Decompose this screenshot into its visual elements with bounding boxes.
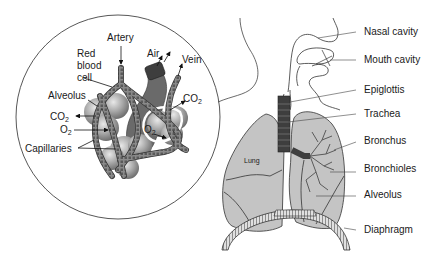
label-co2-left: CO2 <box>50 111 69 122</box>
label-bronchus: Bronchus <box>364 135 406 146</box>
label-nasal-cavity: Nasal cavity <box>364 26 418 37</box>
label-alveolus-inset: Alveolus <box>48 90 86 101</box>
label-o2-left: O2 <box>60 124 72 135</box>
label-lung: Lung <box>244 155 260 166</box>
label-vein: Vein <box>182 54 201 65</box>
label-trachea: Trachea <box>364 108 400 119</box>
label-epiglottis: Epiglottis <box>364 84 405 95</box>
label-diaphragm: Diaphragm <box>364 224 413 235</box>
label-co2-right: CO2 <box>183 93 202 104</box>
label-alveolus: Alveolus <box>364 189 402 200</box>
label-air: Air <box>147 48 159 59</box>
label-blood: blood <box>77 60 101 71</box>
label-o2-right: O2 <box>144 124 156 135</box>
label-mouth-cavity: Mouth cavity <box>364 54 420 65</box>
label-cell: cell <box>77 72 92 83</box>
respiratory-system <box>222 18 356 250</box>
label-bronchioles: Bronchioles <box>364 163 416 174</box>
label-artery: Artery <box>107 32 134 43</box>
label-red: Red <box>77 48 95 59</box>
label-capillaries: Capillaries <box>25 143 72 154</box>
